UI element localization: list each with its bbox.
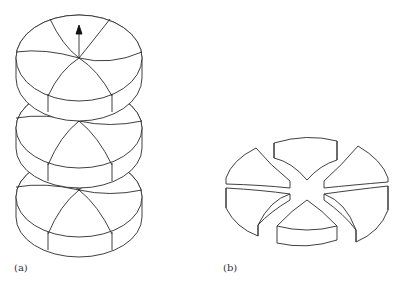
- figure-panel-b: (b): [0, 0, 399, 286]
- split-disk-diagram: [0, 0, 399, 286]
- panel-label-b: (b): [223, 262, 237, 273]
- wedge-top: [274, 137, 337, 180]
- wedge-bottom: [277, 200, 337, 246]
